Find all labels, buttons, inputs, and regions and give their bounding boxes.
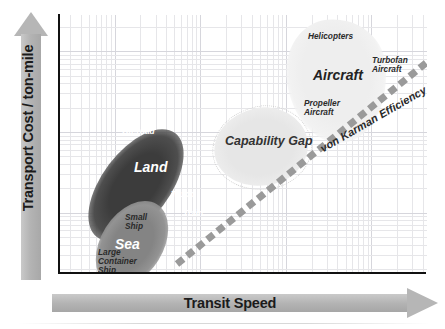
- x-axis-line: [58, 272, 426, 274]
- x-axis-label: Transit Speed: [52, 295, 408, 311]
- y-axis-label: Transport Cost / ton-mile: [20, 28, 36, 228]
- label-small-ship-line2: Ship: [125, 222, 143, 231]
- right-arrow-icon: [407, 288, 438, 318]
- x-axis-arrow: Transit Speed: [52, 288, 438, 318]
- label-propeller-aircraft-line2: Aircraft: [304, 108, 334, 117]
- label-train: Train: [183, 209, 203, 218]
- transport-cost-vs-speed-chart: Transport Cost / ton-mile Transit Speed …: [0, 0, 445, 329]
- label-truck: Truck: [171, 190, 193, 199]
- page-divider: [18, 323, 430, 324]
- plot-area: Helicopters Aircraft Turbofan Aircraft P…: [59, 15, 427, 273]
- label-capability-gap: Capability Gap: [225, 135, 313, 149]
- y-axis-line: [58, 14, 60, 274]
- label-land: Land: [134, 160, 167, 175]
- label-helicopters: Helicopters: [308, 32, 353, 41]
- label-turbofan-aircraft-line2: Aircraft: [372, 65, 402, 74]
- label-aircraft: Aircraft: [313, 68, 363, 83]
- label-off-road: Off-road: [122, 127, 155, 136]
